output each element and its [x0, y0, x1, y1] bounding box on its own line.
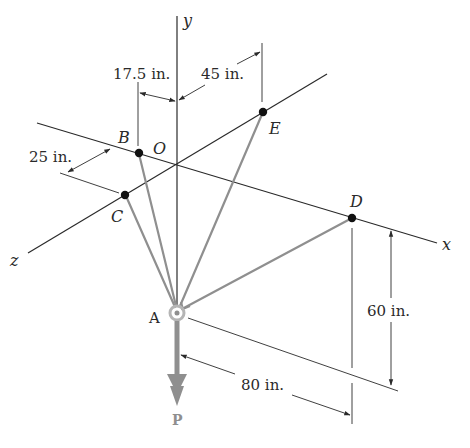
z-axis-label: z	[9, 251, 19, 270]
dim-45-left-arrow	[179, 85, 205, 100]
a-parallel-line	[188, 318, 398, 391]
dim-80-right-arrow	[292, 395, 350, 415]
label-P: P	[172, 412, 183, 428]
c-extension-line	[60, 173, 119, 193]
label-D: D	[349, 192, 363, 211]
point-B	[135, 149, 143, 157]
dim-label-80: 80 in.	[241, 376, 284, 394]
point-E	[259, 108, 267, 116]
cable-AD	[182, 218, 352, 309]
dim-label-25: 25 in.	[29, 148, 72, 166]
dim-80-left-arrow-2	[181, 355, 235, 374]
point-C	[121, 191, 129, 199]
cable-AB	[139, 154, 176, 306]
dim-17-5-arrow	[140, 93, 175, 101]
dim-label-17-5: 17.5 in.	[113, 65, 170, 83]
x-axis-label: x	[442, 235, 451, 254]
point-A-ring	[170, 306, 184, 320]
label-B: B	[117, 128, 130, 147]
cable-AE	[180, 112, 263, 306]
dim-label-60: 60 in.	[367, 302, 410, 320]
cable-AC	[126, 196, 175, 307]
dim-45-right-arrow	[237, 52, 260, 64]
label-O: O	[153, 139, 166, 158]
dim-25-arrow	[68, 149, 110, 172]
dim-label-45: 45 in.	[201, 65, 244, 83]
statics-3d-cable-diagram: y x z B O C E D A P 17.5 in. 45 in. 25 i…	[0, 0, 470, 448]
label-C: C	[111, 207, 123, 226]
x-axis	[37, 123, 437, 243]
y-axis-label: y	[182, 11, 193, 30]
force-P-arrowhead-icon	[170, 386, 184, 406]
point-D	[348, 214, 356, 222]
label-E: E	[268, 119, 281, 138]
label-A: A	[148, 309, 160, 327]
